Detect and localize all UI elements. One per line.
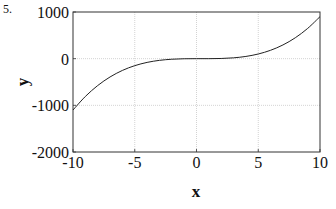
x-tick-label: -5 <box>128 154 141 171</box>
y-tick-label: -1000 <box>32 97 69 114</box>
x-tick-label: 5 <box>254 154 262 171</box>
x-axis-label: x <box>192 182 201 201</box>
y-tick-label: -2000 <box>32 144 69 161</box>
x-tick-label: 0 <box>193 154 201 171</box>
y-tick-label: 0 <box>61 51 69 68</box>
x-tick-label: 10 <box>312 154 328 171</box>
y-axis-label: y <box>13 77 32 86</box>
y-tick-label: 1000 <box>37 4 69 21</box>
line-chart: -10-5051010000-1000-2000 x y <box>0 0 336 209</box>
gridlines <box>73 12 320 152</box>
axis-ticks: -10-5051010000-1000-2000 <box>32 4 328 171</box>
